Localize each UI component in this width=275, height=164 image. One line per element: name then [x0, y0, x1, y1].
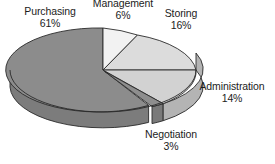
- slice-label-storing-pct: 16%: [150, 20, 212, 32]
- slice-side-negotiation: [152, 104, 163, 124]
- pie-chart: Purchasing 61% Management 6% Storing 16%…: [0, 0, 275, 164]
- pie-top-faces: [6, 28, 196, 112]
- slice-label-purchasing-name: Purchasing: [24, 5, 76, 17]
- slice-label-negotiation: Negotiation 3%: [131, 129, 211, 152]
- slice-label-administration: Administration 14%: [189, 81, 275, 104]
- slice-label-administration-pct: 14%: [189, 93, 275, 105]
- slice-label-purchasing-pct: 61%: [10, 18, 90, 30]
- slice-label-negotiation-name: Negotiation: [145, 128, 197, 140]
- slice-label-purchasing: Purchasing 61%: [10, 6, 90, 29]
- slice-label-storing: Storing 16%: [150, 8, 212, 31]
- slice-label-negotiation-pct: 3%: [131, 141, 211, 153]
- slice-label-management-name: Management: [93, 0, 153, 9]
- slice-label-storing-name: Storing: [165, 7, 198, 19]
- slice-label-administration-name: Administration: [199, 80, 264, 92]
